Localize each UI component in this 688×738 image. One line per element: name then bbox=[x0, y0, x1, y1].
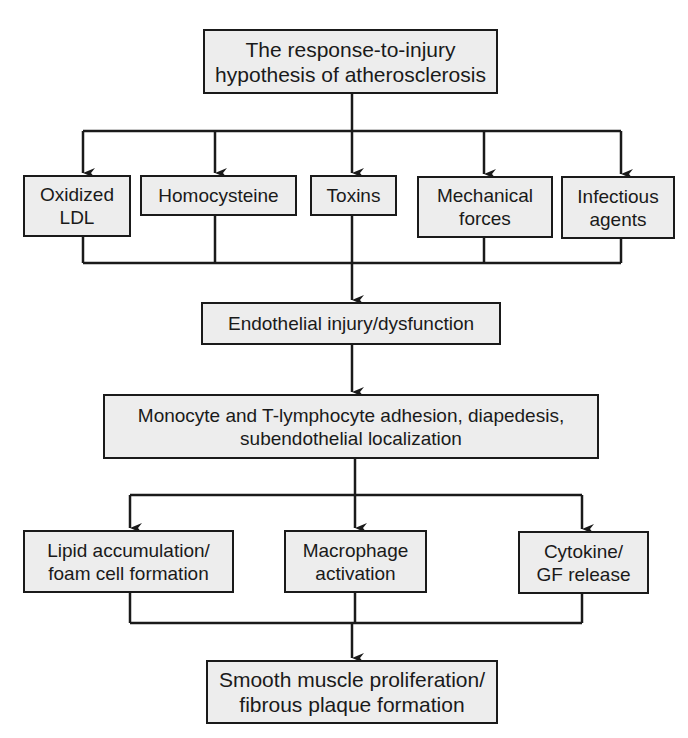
outcome-box: Smooth muscle proliferation/ fibrous pla… bbox=[206, 660, 498, 724]
outcome-label: Smooth muscle proliferation/ fibrous pla… bbox=[219, 667, 485, 717]
cause-mechanical-forces: Mechanical forces bbox=[417, 176, 553, 238]
cause-label: Toxins bbox=[327, 184, 381, 207]
endothelial-injury-box: Endothelial injury/dysfunction bbox=[201, 302, 501, 345]
effect-cytokine-release: Cytokine/ GF release bbox=[518, 531, 649, 594]
cause-oxidized-ldl: Oxidized LDL bbox=[23, 175, 131, 237]
effect-label: Lipid accumulation/ foam cell formation bbox=[47, 539, 210, 585]
connector-lines bbox=[0, 0, 688, 738]
cause-label: Mechanical forces bbox=[437, 184, 533, 230]
effect-macrophage-activation: Macrophage activation bbox=[284, 530, 427, 593]
effect-label: Cytokine/ GF release bbox=[537, 540, 631, 586]
cause-homocysteine: Homocysteine bbox=[140, 175, 297, 216]
step-label: Endothelial injury/dysfunction bbox=[228, 312, 474, 335]
title-text: The response-to-injury hypothesis of ath… bbox=[215, 37, 486, 87]
cause-infectious-agents: Infectious agents bbox=[561, 176, 675, 239]
cause-label: Homocysteine bbox=[158, 184, 278, 207]
cause-label: Infectious agents bbox=[577, 185, 658, 231]
step-label: Monocyte and T-lymphocyte adhesion, diap… bbox=[138, 404, 564, 450]
effect-lipid-accumulation: Lipid accumulation/ foam cell formation bbox=[23, 530, 234, 593]
cause-toxins: Toxins bbox=[310, 175, 397, 216]
title-box: The response-to-injury hypothesis of ath… bbox=[203, 29, 498, 94]
effect-label: Macrophage activation bbox=[303, 539, 409, 585]
cause-label: Oxidized LDL bbox=[40, 183, 114, 229]
monocyte-adhesion-box: Monocyte and T-lymphocyte adhesion, diap… bbox=[103, 394, 599, 459]
